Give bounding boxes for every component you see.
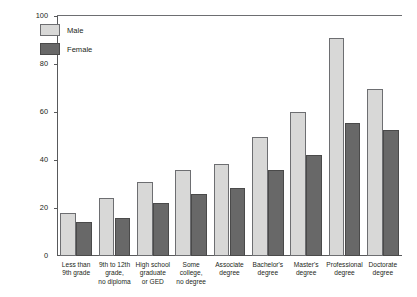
y-tick-label: 20 (26, 204, 48, 212)
bar-female (383, 130, 399, 256)
bar-group (252, 16, 284, 256)
bar-group (137, 16, 169, 256)
x-axis-label: Doctoratedegree (357, 261, 409, 278)
bar-group (290, 16, 322, 256)
y-tick-mark (54, 112, 58, 113)
legend-label-male: Male (67, 26, 83, 35)
bar-female (115, 218, 131, 256)
bar-female (191, 194, 207, 256)
y-tick-label: 0 (26, 252, 48, 260)
legend-item-male: Male (40, 24, 92, 36)
y-tick-label: 100 (26, 12, 48, 20)
x-axis-label-line: no degree (165, 278, 217, 286)
bar-group (367, 16, 399, 256)
x-axis-label-line: Doctorate (357, 261, 409, 269)
bar-chart: 020406080100 Less than9th grade9th to 12… (0, 0, 417, 297)
bar-female (306, 155, 322, 256)
bar-male (290, 112, 306, 256)
bar-male (175, 170, 191, 256)
legend: Male Female (40, 24, 92, 62)
bar-female (268, 170, 284, 256)
bar-male (252, 137, 268, 256)
y-tick-label: 60 (26, 108, 48, 116)
bar-group (214, 16, 246, 256)
bar-female (230, 188, 246, 256)
bar-group (175, 16, 207, 256)
legend-swatch-male (40, 24, 60, 36)
bar-group (329, 16, 361, 256)
legend-item-female: Female (40, 43, 92, 55)
bar-male (99, 198, 115, 256)
bar-female (76, 222, 92, 256)
bar-female (153, 203, 169, 256)
bar-male (329, 38, 345, 256)
legend-label-female: Female (67, 45, 92, 54)
bar-male (60, 213, 76, 256)
bar-male (367, 89, 383, 256)
y-tick-mark (54, 16, 58, 17)
bar-female (345, 123, 361, 256)
bar-group (99, 16, 131, 256)
x-axis-label-line: degree (357, 269, 409, 277)
bar-male (214, 164, 230, 256)
y-tick-mark (54, 64, 58, 65)
y-tick-mark (54, 160, 58, 161)
bar-male (137, 182, 153, 256)
y-tick-label: 40 (26, 156, 48, 164)
y-tick-mark (54, 208, 58, 209)
legend-swatch-female (40, 43, 60, 55)
